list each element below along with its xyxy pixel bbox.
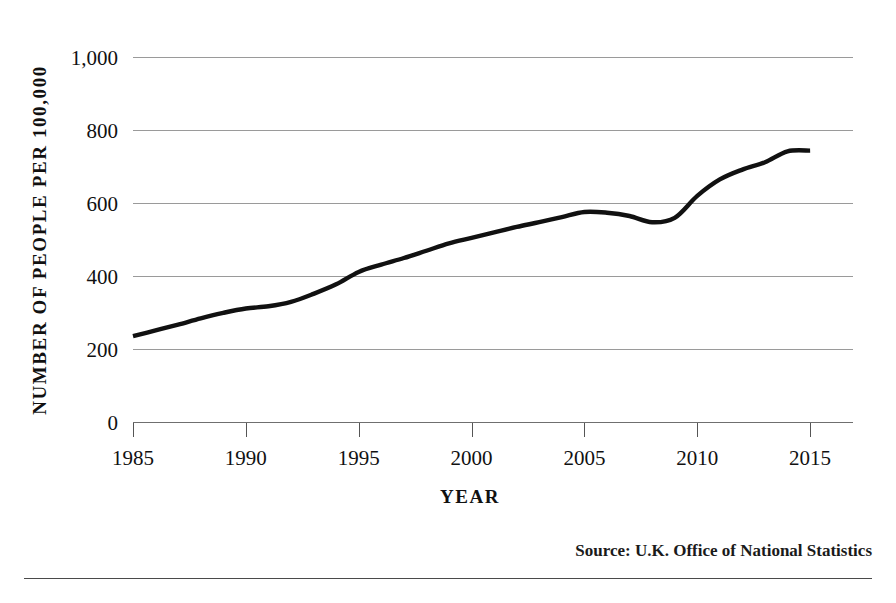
x-tick-label-1985: 1985: [112, 446, 154, 470]
x-tick-label-2000: 2000: [451, 446, 493, 470]
x-tick-label-1995: 1995: [338, 446, 380, 470]
y-tick-label-600: 600: [87, 192, 119, 216]
x-axis-title: YEAR: [440, 486, 500, 507]
y-tick-label-400: 400: [87, 265, 119, 289]
data-series-line: [133, 150, 810, 336]
source-note: Source: U.K. Office of National Statisti…: [575, 541, 872, 560]
y-tick-label-200: 200: [87, 338, 119, 362]
x-tick-labels-group: 1985199019952000200520102015: [112, 446, 831, 470]
x-tick-label-2015: 2015: [789, 446, 831, 470]
y-tick-label-800: 800: [87, 119, 119, 143]
x-tick-label-2010: 2010: [676, 446, 718, 470]
x-tick-label-2005: 2005: [563, 446, 605, 470]
line-chart: 02004006008001,000 198519901995200020052…: [0, 0, 896, 603]
y-axis-title: NUMBER OF PEOPLE PER 100,000: [29, 65, 50, 415]
y-tick-label-1000: 1,000: [71, 46, 118, 70]
x-tick-label-1990: 1990: [225, 446, 267, 470]
figure-panel: 02004006008001,000 198519901995200020052…: [0, 0, 896, 603]
x-tickmarks-group: [134, 423, 811, 437]
gridlines-group: [133, 58, 853, 350]
y-tick-labels-group: 02004006008001,000: [71, 46, 118, 436]
y-tick-label-0: 0: [108, 411, 119, 435]
